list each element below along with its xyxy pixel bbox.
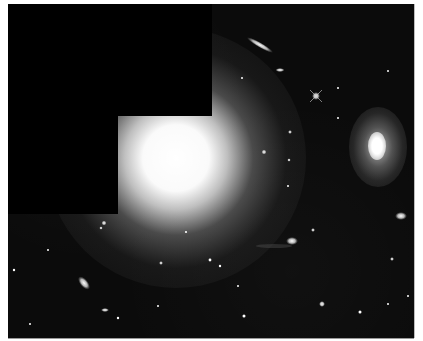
masked-region-top <box>8 4 212 116</box>
frame-border <box>8 338 414 339</box>
masked-region-left <box>8 116 118 214</box>
astronomical-image <box>8 4 414 338</box>
frame-border <box>414 4 415 338</box>
